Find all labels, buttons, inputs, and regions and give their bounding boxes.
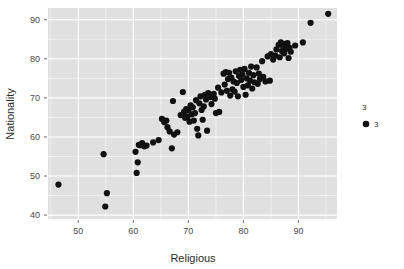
data-point — [300, 39, 306, 45]
data-point — [216, 109, 222, 115]
data-point — [190, 104, 196, 110]
y-tick-label: 70 — [30, 93, 40, 103]
x-tick-label: 80 — [238, 226, 248, 236]
data-point — [156, 137, 162, 143]
data-point — [135, 159, 141, 165]
data-point — [238, 77, 244, 83]
data-point — [169, 145, 175, 151]
data-point — [212, 96, 218, 102]
data-point — [292, 42, 298, 48]
data-point — [243, 92, 249, 98]
data-point — [134, 170, 140, 176]
y-axis: 405060708090 — [30, 15, 47, 220]
data-point — [174, 129, 180, 135]
x-axis-title: Religious — [170, 252, 216, 264]
data-point — [192, 110, 198, 116]
data-point — [200, 117, 206, 123]
y-tick-label: 80 — [30, 54, 40, 64]
data-point — [163, 117, 169, 123]
data-point — [132, 149, 138, 155]
data-point — [235, 93, 241, 99]
y-tick-label: 40 — [30, 210, 40, 220]
x-tick-label: 90 — [293, 226, 303, 236]
data-point — [180, 89, 186, 95]
data-point — [325, 11, 331, 17]
data-point — [248, 64, 254, 70]
legend-key-label[interactable]: 3 — [374, 120, 379, 129]
legend: 33 — [362, 103, 379, 129]
data-point — [307, 20, 313, 26]
x-axis: 5060708090 — [73, 220, 303, 236]
y-tick-label: 60 — [30, 132, 40, 142]
data-point — [222, 81, 228, 87]
legend-title: 3 — [362, 103, 367, 112]
data-point — [136, 142, 142, 148]
data-point — [267, 78, 273, 84]
data-point — [150, 139, 156, 145]
data-point — [170, 98, 176, 104]
y-axis-title: Nationality — [4, 88, 16, 140]
data-point — [55, 182, 61, 188]
data-point — [259, 58, 265, 64]
data-point — [101, 151, 107, 157]
x-tick-label: 70 — [183, 226, 193, 236]
y-tick-label: 50 — [30, 171, 40, 181]
data-point — [208, 101, 214, 107]
data-point — [195, 132, 201, 138]
plot-canvas: 5060708090 405060708090 33 Religious Nat… — [0, 0, 404, 269]
data-point — [104, 190, 110, 196]
data-point — [249, 85, 255, 91]
data-point — [191, 117, 197, 123]
data-point — [194, 126, 200, 132]
x-tick-label: 50 — [73, 226, 83, 236]
data-point — [250, 72, 256, 78]
data-point — [254, 64, 260, 70]
y-tick-label: 90 — [30, 15, 40, 25]
data-point — [285, 55, 291, 61]
x-tick-label: 60 — [128, 226, 138, 236]
data-point — [204, 128, 210, 134]
data-point — [218, 89, 224, 95]
legend-key-marker[interactable] — [363, 121, 370, 128]
scatter-plot-figure: 5060708090 405060708090 33 Religious Nat… — [0, 0, 404, 269]
data-point — [288, 49, 294, 55]
data-point — [201, 103, 207, 109]
data-point — [143, 142, 149, 148]
data-point — [102, 203, 108, 209]
